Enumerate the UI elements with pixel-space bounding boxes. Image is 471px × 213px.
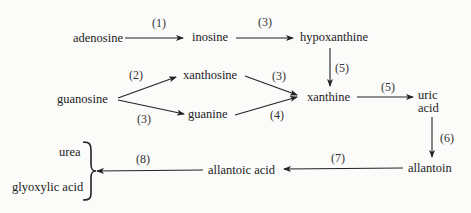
arrow-allantoin-allantoic-acid (284, 168, 403, 169)
step-label-8: (8) (136, 153, 150, 165)
step-label-3b: (3) (137, 113, 151, 125)
arrow-xanthosine-xanthine (245, 76, 297, 95)
arrow-guanosine-xanthosine (118, 77, 176, 98)
node-uric-acid-line2: acid (418, 102, 439, 115)
step-label-4: (4) (270, 109, 284, 121)
node-xanthosine: xanthosine (183, 69, 237, 82)
purine-degradation-diagram: adenosine inosine hypoxanthine xanthosin… (0, 0, 471, 213)
node-urea: urea (59, 146, 81, 159)
step-label-1: (1) (152, 17, 166, 29)
arrow-guanosine-guanine (118, 100, 184, 114)
step-label-6: (6) (440, 132, 454, 144)
node-adenosine: adenosine (73, 32, 123, 45)
node-inosine: inosine (192, 31, 228, 44)
step-label-7: (7) (331, 152, 345, 164)
node-uric-acid-line1: uric (418, 89, 437, 102)
arrow-allantoic-acid-products (97, 170, 203, 171)
node-guanine: guanine (188, 108, 228, 121)
node-xanthine: xanthine (307, 91, 350, 104)
arrow-guanine-xanthine (235, 97, 297, 115)
node-allantoic-acid: allantoic acid (208, 164, 275, 177)
node-glyoxylic-acid: glyoxylic acid (12, 181, 83, 194)
step-label-2: (2) (129, 69, 143, 81)
step-label-3c: (3) (272, 70, 286, 82)
node-allantoin: allantoin (408, 162, 452, 175)
node-guanosine: guanosine (57, 93, 108, 106)
node-hypoxanthine: hypoxanthine (300, 31, 368, 44)
step-label-3a: (3) (258, 16, 272, 28)
step-label-5b: (5) (381, 81, 395, 93)
step-label-5a: (5) (335, 62, 349, 74)
brace-icon (83, 142, 96, 200)
